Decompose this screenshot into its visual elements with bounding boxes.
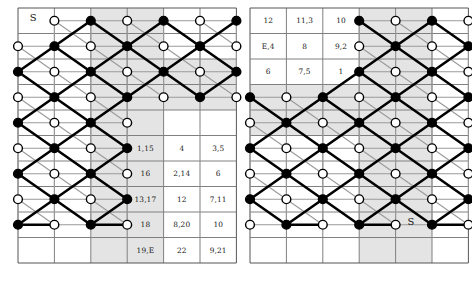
node-black[interactable] [391,93,400,102]
node-white[interactable] [391,169,400,178]
node-black[interactable] [50,42,59,51]
node-white[interactable] [318,220,327,229]
node-black[interactable] [428,220,437,229]
node-black[interactable] [428,16,437,25]
node-black[interactable] [318,144,327,153]
node-black[interactable] [391,42,400,51]
node-black[interactable] [355,220,364,229]
node-black[interactable] [282,169,291,178]
node-white[interactable] [50,169,59,178]
node-black[interactable] [464,195,472,204]
node-white[interactable] [232,93,241,102]
node-black[interactable] [50,93,59,102]
node-black[interactable] [391,195,400,204]
node-black[interactable] [86,118,95,127]
node-black[interactable] [14,118,23,127]
node-white[interactable] [355,42,364,51]
node-white[interactable] [391,118,400,127]
node-white[interactable] [246,169,255,178]
node-black[interactable] [86,220,95,229]
node-black[interactable] [123,93,132,102]
node-black[interactable] [318,195,327,204]
node-black[interactable] [428,169,437,178]
node-white[interactable] [355,144,364,153]
node-black[interactable] [355,118,364,127]
node-white[interactable] [86,144,95,153]
node-black[interactable] [282,220,291,229]
node-white[interactable] [14,195,23,204]
node-black[interactable] [428,67,437,76]
node-white[interactable] [50,118,59,127]
node-white[interactable] [464,169,472,178]
node-black[interactable] [123,144,132,153]
node-black[interactable] [355,16,364,25]
node-black[interactable] [246,195,255,204]
node-white[interactable] [318,118,327,127]
node-black[interactable] [464,93,472,102]
node-white[interactable] [14,42,23,51]
node-white[interactable] [123,220,132,229]
node-white[interactable] [232,42,241,51]
node-white[interactable] [123,16,132,25]
node-white[interactable] [355,195,364,204]
node-white[interactable] [282,144,291,153]
node-black[interactable] [86,16,95,25]
node-white[interactable] [123,67,132,76]
node-white[interactable] [428,42,437,51]
node-white[interactable] [464,16,472,25]
node-white[interactable] [86,195,95,204]
node-black[interactable] [282,118,291,127]
node-black[interactable] [14,220,23,229]
node-white[interactable] [86,42,95,51]
node-white[interactable] [391,16,400,25]
node-black[interactable] [50,144,59,153]
node-black[interactable] [391,144,400,153]
node-white[interactable] [282,93,291,102]
node-black[interactable] [14,169,23,178]
node-black[interactable] [246,144,255,153]
node-white[interactable] [50,67,59,76]
node-white[interactable] [428,195,437,204]
node-white[interactable] [123,118,132,127]
node-black[interactable] [464,144,472,153]
node-white[interactable] [86,93,95,102]
node-white[interactable] [50,220,59,229]
node-white[interactable] [196,16,205,25]
node-black[interactable] [159,67,168,76]
node-black[interactable] [14,67,23,76]
node-white[interactable] [355,93,364,102]
node-white[interactable] [246,220,255,229]
node-black[interactable] [196,42,205,51]
node-black[interactable] [196,93,205,102]
node-white[interactable] [428,144,437,153]
node-white[interactable] [318,169,327,178]
node-black[interactable] [159,16,168,25]
node-white[interactable] [14,144,23,153]
node-white[interactable] [428,93,437,102]
node-white[interactable] [464,67,472,76]
node-white[interactable] [50,16,59,25]
node-white[interactable] [464,220,472,229]
node-white[interactable] [246,118,255,127]
node-white[interactable] [464,118,472,127]
node-black[interactable] [246,93,255,102]
node-black[interactable] [232,16,241,25]
node-white[interactable] [159,42,168,51]
node-white[interactable] [14,93,23,102]
node-white[interactable] [282,195,291,204]
node-black[interactable] [318,93,327,102]
node-black[interactable] [86,169,95,178]
node-black[interactable] [123,42,132,51]
node-black[interactable] [355,169,364,178]
node-black[interactable] [355,67,364,76]
node-black[interactable] [123,195,132,204]
node-white[interactable] [196,67,205,76]
node-black[interactable] [232,67,241,76]
node-black[interactable] [428,118,437,127]
node-white[interactable] [391,67,400,76]
node-black[interactable] [464,42,472,51]
node-black[interactable] [50,195,59,204]
node-white[interactable] [123,169,132,178]
node-white[interactable] [391,220,400,229]
node-white[interactable] [159,93,168,102]
